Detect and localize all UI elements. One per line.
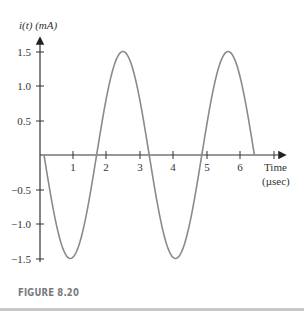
x-tick-label: 2 [103,161,109,173]
x-tick-label: 1 [70,161,76,173]
chart: 1.5 1.0 0.5 −0.5 −1.0 −1.5 1 2 3 4 5 6 i… [0,0,304,314]
y-tick-label: 1.0 [17,80,31,92]
x-tick-label: 5 [204,161,210,173]
x-axis-title-line2: (µsec) [262,175,290,188]
bottom-divider [0,308,304,311]
y-tick-label: 1.5 [17,46,31,58]
x-tick-label: 3 [137,161,143,173]
y-axis-title: i(t) (mA) [19,19,58,32]
y-tick-label: −1.0 [11,218,31,230]
y-tick-label: 0.5 [17,115,31,127]
y-tick-label: −0.5 [11,184,31,196]
x-tick-label: 6 [237,161,243,173]
x-axis-title-line1: Time [264,161,287,173]
figure-caption: FIGURE 8.20 [18,287,79,298]
y-tick-label: −1.5 [11,253,31,265]
x-tick-label: 4 [170,161,176,173]
